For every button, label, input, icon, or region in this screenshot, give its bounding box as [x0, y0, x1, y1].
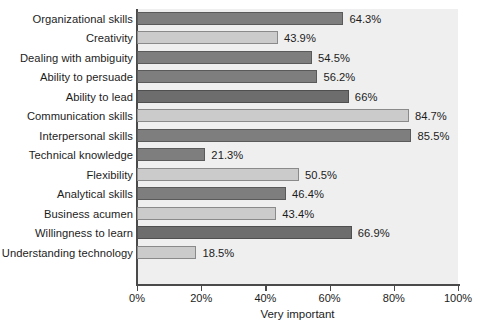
x-tick-mark: [330, 286, 331, 291]
x-tick-mark: [458, 286, 459, 291]
x-tick-mark: [265, 286, 266, 291]
x-tick-label: 40%: [254, 292, 276, 304]
x-tick-mark: [394, 286, 395, 291]
x-tick-label: 20%: [190, 292, 212, 304]
x-axis-ticks: 0%20%40%60%80%100%: [0, 0, 485, 329]
x-tick-mark: [137, 286, 138, 291]
bar-chart: Organizational skills64.3%Creativity43.9…: [0, 0, 485, 329]
x-tick-label: 80%: [383, 292, 405, 304]
x-axis-title: Very important: [137, 308, 458, 320]
x-tick-label: 0%: [129, 292, 145, 304]
x-tick-label: 60%: [319, 292, 341, 304]
x-tick-label: 100%: [444, 292, 472, 304]
x-tick-mark: [201, 286, 202, 291]
